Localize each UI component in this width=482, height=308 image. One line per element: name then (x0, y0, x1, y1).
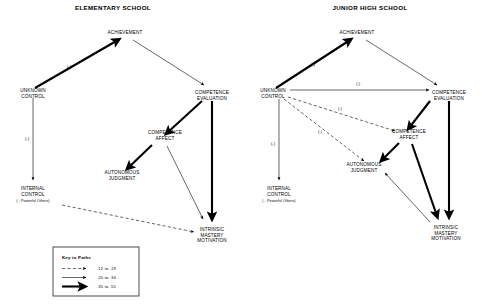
node-label-internal-control-line2: CONTROL (21, 192, 45, 197)
node-label-autonomous-judgment-line2: JUDGMENT (109, 176, 136, 181)
legend-label-dashed: .12 to .19 (97, 266, 117, 271)
node-autonomous-judgment-elementary: AUTONOMOUS JUDGMENT (105, 170, 140, 181)
edge-sign-unknown-to-achievement-junior: (-) (311, 62, 316, 67)
panel-title-junior-high: JUNIOR HIGH SCHOOL (332, 4, 407, 11)
node-label-intrinsic-mastery-line2: MASTERY (200, 233, 223, 238)
node-autonomous-judgment-junior-high: AUTONOMOUS JUDGMENT (347, 162, 382, 173)
edge-sign-unknown-to-autonomous-judgment-junior: (-) (318, 129, 323, 134)
node-achievement-elementary: ACHIEVEMENT (108, 30, 143, 35)
node-sublabel-internal-control: ( - Powerful Others) (16, 199, 49, 203)
node-label-competence-evaluation-line2: EVALUATION (197, 96, 227, 101)
node-label-intrinsic-mastery-line3: MOTIVATION (431, 236, 460, 241)
node-label-intrinsic-mastery-line2: MASTERY (434, 231, 457, 236)
node-label-unknown-control-line2: CONTROL (261, 94, 285, 99)
legend-label-thick: .35 to .55 (97, 284, 117, 289)
node-unknown-control-junior-high: UNKNOWN CONTROL (260, 88, 285, 99)
node-unknown-control-elementary: UNKNOWN CONTROL (20, 88, 45, 99)
node-intrinsic-mastery-elementary: INTRINSIC MASTERY MOTIVATION (197, 227, 226, 243)
node-label-competence-evaluation-line2: EVALUATION (434, 96, 464, 101)
legend-label-thin: .20 to .34 (97, 275, 117, 280)
node-competence-evaluation-elementary: COMPETENCE EVALUATION (195, 90, 229, 101)
node-label-intrinsic-mastery-line1: INTRINSIC (434, 225, 459, 230)
node-achievement-junior-high: ACHIEVEMENT (340, 30, 375, 35)
node-internal-control-elementary: INTERNAL CONTROL ( - Powerful Others) (16, 186, 49, 203)
edge-sign-unknown-to-competence-evaluation-junior: (-) (356, 81, 361, 86)
node-label-competence-affect-line1: COMPETENCE (392, 129, 426, 134)
node-label-competence-affect-line2: AFFECT (156, 136, 175, 141)
node-competence-evaluation-junior-high: COMPETENCE EVALUATION (432, 90, 466, 101)
node-label-intrinsic-mastery-line1: INTRINSIC (200, 227, 225, 232)
node-label-competence-evaluation-line1: COMPETENCE (195, 90, 229, 95)
node-label-achievement: ACHIEVEMENT (340, 30, 375, 35)
edge-sign-unknown-to-internal-junior: (-) (271, 141, 276, 146)
node-label-internal-control-line1: INTERNAL (267, 186, 291, 191)
node-label-autonomous-judgment-line1: AUTONOMOUS (347, 162, 382, 167)
node-internal-control-junior-high: INTERNAL CONTROL ( - Powerful Others) (262, 186, 295, 203)
path-diagram-figure: ELEMENTARY SCHOOL (-) (-) ACHIEVEMENT (0, 0, 482, 308)
node-label-competence-affect-line1: COMPETENCE (148, 130, 182, 135)
node-label-autonomous-judgment-line1: AUTONOMOUS (105, 170, 140, 175)
edge-sign-unknown-to-achievement-elementary: (-) (67, 64, 72, 69)
legend-title: Key to Paths (62, 255, 91, 260)
canvas-background (0, 0, 482, 308)
node-label-internal-control-line1: INTERNAL (21, 186, 45, 191)
node-label-achievement: ACHIEVEMENT (108, 30, 143, 35)
node-label-intrinsic-mastery-line3: MOTIVATION (197, 238, 226, 243)
edge-sign-unknown-to-competence-affect-junior: (-) (338, 106, 343, 111)
node-label-internal-control-line2: CONTROL (267, 192, 291, 197)
node-intrinsic-mastery-junior-high: INTRINSIC MASTERY MOTIVATION (431, 225, 460, 241)
node-sublabel-internal-control: ( - Powerful Others) (262, 199, 295, 203)
node-label-competence-evaluation-line1: COMPETENCE (432, 90, 466, 95)
node-label-unknown-control-line1: UNKNOWN (260, 88, 285, 93)
node-label-unknown-control-line2: CONTROL (21, 94, 45, 99)
node-label-competence-affect-line2: AFFECT (400, 135, 419, 140)
node-label-unknown-control-line1: UNKNOWN (20, 88, 45, 93)
panel-title-elementary: ELEMENTARY SCHOOL (75, 4, 151, 11)
node-label-autonomous-judgment-line2: JUDGMENT (351, 168, 378, 173)
edge-sign-unknown-to-internal-elementary: (-) (25, 136, 30, 141)
